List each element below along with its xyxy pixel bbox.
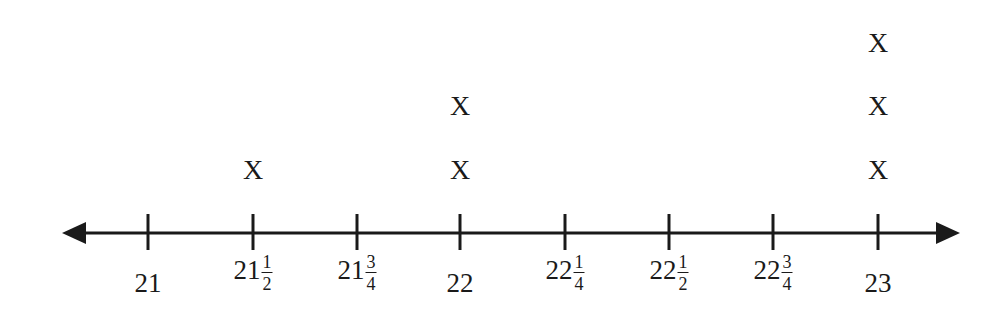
fraction-denominator: 2 (263, 273, 272, 293)
fraction-denominator: 4 (367, 273, 376, 293)
tick-label-fraction: 34 (366, 253, 377, 293)
fraction-denominator: 4 (575, 273, 584, 293)
left-arrow-icon (62, 222, 86, 244)
tick-label-whole: 22 (447, 270, 474, 297)
fraction-numerator: 1 (574, 253, 585, 273)
tick-label-fraction: 14 (574, 253, 585, 293)
fraction-numerator: 1 (678, 253, 689, 273)
tick-label-fraction: 34 (782, 253, 793, 293)
right-arrow-icon (936, 222, 960, 244)
tick-label: 22 (447, 270, 474, 297)
tick-label: 23 (865, 270, 892, 297)
tick-label-whole: 22 (650, 257, 677, 284)
tick-label: 2112 (234, 250, 273, 290)
tick-label: 2212 (650, 250, 689, 290)
x-marker: X (243, 156, 263, 184)
tick-label-whole: 21 (338, 257, 365, 284)
x-marker: X (868, 92, 888, 120)
tick-label-whole: 23 (865, 270, 892, 297)
tick-label-fraction: 12 (678, 253, 689, 293)
tick-label: 2214 (546, 250, 585, 290)
x-marker: X (450, 156, 470, 184)
tick-label-fraction: 12 (262, 253, 273, 293)
tick-label: 2234 (754, 250, 793, 290)
tick-label-whole: 22 (754, 257, 781, 284)
x-marker: X (450, 92, 470, 120)
number-line-axis (62, 222, 960, 244)
tick-label: 21 (135, 270, 162, 297)
fraction-denominator: 4 (783, 273, 792, 293)
x-marker: X (868, 156, 888, 184)
tick-label-whole: 22 (546, 257, 573, 284)
tick-label: 2134 (338, 250, 377, 290)
tick-label-whole: 21 (234, 257, 261, 284)
fraction-numerator: 1 (262, 253, 273, 273)
fraction-denominator: 2 (679, 273, 688, 293)
x-marker: X (868, 29, 888, 57)
fraction-numerator: 3 (366, 253, 377, 273)
tick-label-whole: 21 (135, 270, 162, 297)
fraction-numerator: 3 (782, 253, 793, 273)
